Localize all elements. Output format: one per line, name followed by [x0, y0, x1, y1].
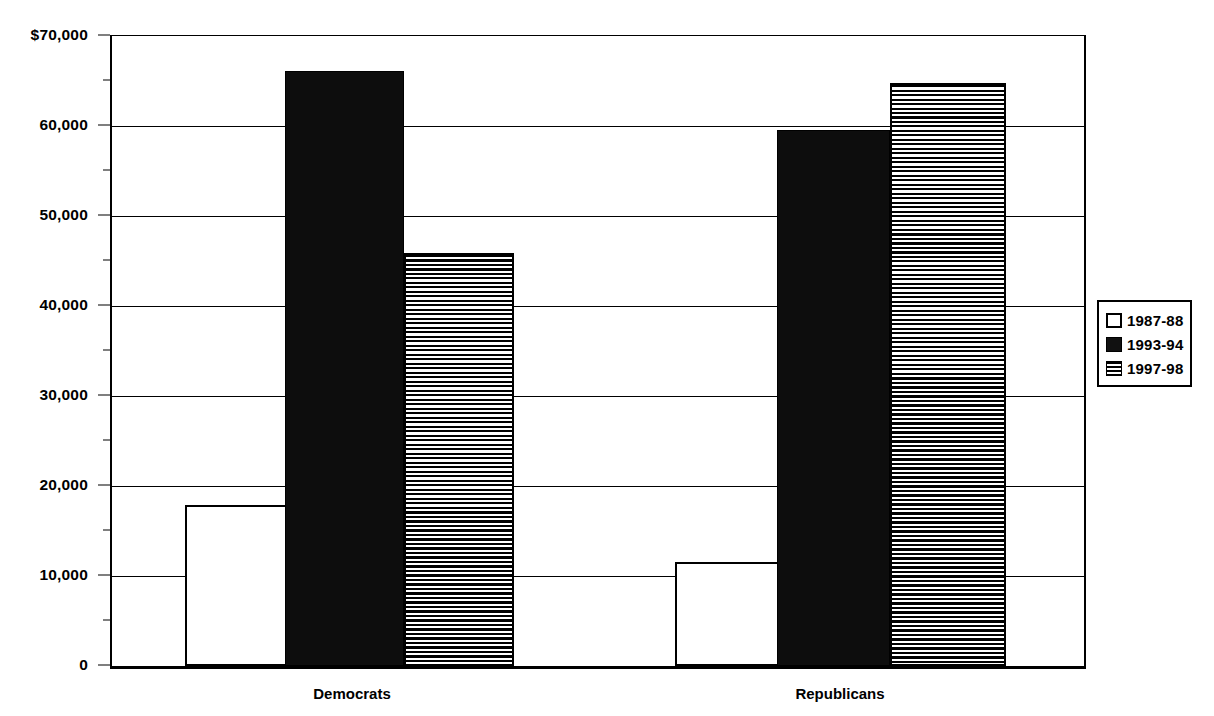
bar-democrats-1993-94: [285, 71, 404, 666]
y-axis: $70,000 60,000 50,000 40,000 30,000 20,0…: [0, 35, 110, 665]
bar-democrats-1997-98: [404, 253, 514, 666]
y-tick-label: $70,000: [31, 26, 88, 44]
bar-republicans-1987-88: [675, 562, 782, 666]
y-tick-mark-minor: [103, 530, 110, 531]
bar-republicans-1993-94: [777, 130, 890, 666]
y-tick-mark: [98, 215, 110, 216]
y-tick-mark: [98, 395, 110, 396]
y-tick-mark: [98, 305, 110, 306]
legend-label: 1987-88: [1127, 312, 1183, 329]
y-tick-label: 20,000: [39, 476, 88, 494]
y-tick-mark: [98, 35, 110, 36]
y-tick-mark: [98, 125, 110, 126]
legend-label: 1993-94: [1127, 336, 1183, 353]
legend: 1987-88 1993-94 1997-98: [1097, 300, 1192, 387]
legend-swatch-icon: [1106, 313, 1122, 328]
y-tick-mark-minor: [103, 350, 110, 351]
y-tick-mark-minor: [103, 80, 110, 81]
bar-republicans-1997-98: [890, 83, 1006, 666]
legend-swatch-icon: [1106, 361, 1122, 376]
plot-area: [110, 35, 1086, 669]
y-tick-label: 60,000: [39, 116, 88, 134]
x-axis-label-republicans: Republicans: [795, 685, 884, 702]
y-tick-mark: [98, 575, 110, 576]
x-axis-label-democrats: Democrats: [313, 685, 391, 702]
legend-item-1993-94: 1993-94: [1106, 332, 1182, 356]
y-tick-mark: [98, 485, 110, 486]
y-tick-mark-minor: [103, 170, 110, 171]
y-tick-mark-minor: [103, 620, 110, 621]
bar-chart: $70,000 60,000 50,000 40,000 30,000 20,0…: [0, 0, 1214, 716]
y-tick-label: 40,000: [39, 296, 88, 314]
y-tick-label: 0: [79, 656, 88, 674]
legend-item-1997-98: 1997-98: [1106, 356, 1182, 380]
legend-label: 1997-98: [1127, 360, 1183, 377]
y-tick-mark-minor: [103, 260, 110, 261]
legend-swatch-icon: [1106, 337, 1122, 352]
y-tick-label: 50,000: [39, 206, 88, 224]
y-tick-label: 30,000: [39, 386, 88, 404]
y-tick-label: 10,000: [39, 566, 88, 584]
y-tick-mark-minor: [103, 440, 110, 441]
bar-democrats-1987-88: [185, 505, 291, 666]
legend-item-1987-88: 1987-88: [1106, 308, 1182, 332]
y-tick-mark: [98, 665, 110, 666]
